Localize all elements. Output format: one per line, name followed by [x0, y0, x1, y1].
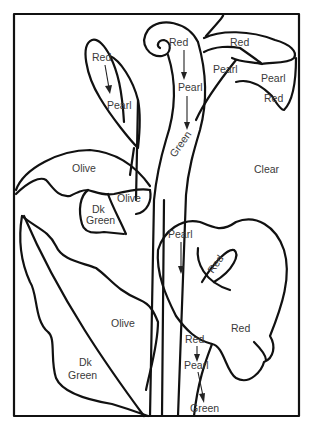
label-flower-red: Red: [230, 36, 249, 48]
label-flower-clear: Clear: [254, 163, 280, 175]
pattern-canvas: Red Pearl Red Pearl Green Red Pearl Pear…: [0, 0, 315, 432]
label-flower-red-lower: Red: [264, 92, 283, 104]
label-stem-green: Green: [167, 128, 194, 159]
bud-shape: [86, 40, 140, 200]
arrow-down-icon: [105, 65, 112, 94]
label-bud-pearl: Pearl: [107, 99, 132, 111]
label-leaf-green-lower: Green: [68, 369, 97, 381]
calla-lily-pattern: Red Pearl Red Pearl Green Red Pearl Pear…: [0, 0, 315, 432]
label-leaf-green: Green: [86, 214, 115, 226]
label-flower-bottom-pearl: Pearl: [168, 228, 193, 240]
label-leaf-dk-lower: Dk: [79, 356, 93, 368]
lower-leaf: [20, 216, 158, 416]
label-leaf-olive-small: Olive: [117, 192, 141, 204]
label-stem-red: Red: [169, 36, 188, 48]
label-stem-pearl: Pearl: [178, 81, 203, 93]
label-stem2-green: Green: [190, 402, 219, 414]
label-flower-pearl-right: Pearl: [261, 72, 286, 84]
label-leaf-olive-upper: Olive: [72, 162, 96, 174]
label-flower-pearl-left: Pearl: [213, 63, 238, 75]
label-flower-bottom-red: Red: [231, 322, 250, 334]
frame-border: [14, 14, 299, 416]
label-bud-red: Red: [92, 51, 111, 63]
arrow-down-icon: [184, 96, 190, 130]
label-stem2-red: Red: [185, 333, 204, 345]
top-flower: [196, 14, 296, 120]
label-stem2-pearl: Pearl: [184, 359, 209, 371]
arrow-down-icon: [181, 50, 187, 80]
bottom-flower: [158, 220, 287, 416]
label-leaf-olive-lower: Olive: [111, 317, 135, 329]
